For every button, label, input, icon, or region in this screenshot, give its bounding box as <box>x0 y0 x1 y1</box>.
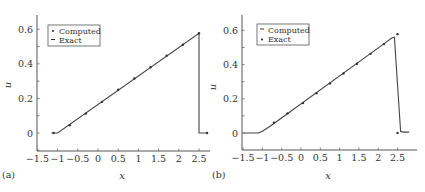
data-point-computed <box>52 132 54 134</box>
data-point-computed <box>206 132 208 134</box>
data-point-exact <box>273 122 275 124</box>
x-tick-label: −0.5 <box>66 153 89 164</box>
series-line-exact <box>52 33 208 133</box>
x-tick-label: 0 <box>95 153 101 164</box>
data-point-computed <box>85 112 87 114</box>
data-point-computed <box>182 44 184 46</box>
chart-panel-a: −1.5−1−0.500.511.522.500.20.40.6xu(a)Com… <box>2 15 210 181</box>
data-point-exact <box>342 72 344 74</box>
x-tick-label: 2 <box>375 152 381 163</box>
legend: ComputedExact <box>257 24 310 45</box>
x-tick-label: 1.5 <box>351 152 366 163</box>
data-point-exact <box>286 112 288 114</box>
y-axis-label: u <box>2 82 13 88</box>
data-point-computed <box>117 89 119 91</box>
x-tick-label: 1.5 <box>151 153 166 164</box>
data-point-exact <box>396 33 398 35</box>
x-tick-label: 0.5 <box>111 153 126 164</box>
chart-panel-b: −1.5−1−0.500.511.522.500.20.40.6xu(b)Com… <box>207 15 417 181</box>
data-point-computed <box>198 32 200 34</box>
data-point-computed <box>101 101 103 103</box>
data-point-computed <box>133 77 135 79</box>
y-tick-label: 0 <box>27 128 33 139</box>
x-axis-label: x <box>119 170 125 181</box>
x-tick-label: 1 <box>135 153 141 164</box>
x-tick-label: −1.5 <box>26 153 49 164</box>
panel-label: (a) <box>2 169 15 180</box>
y-tick-label: 0.4 <box>18 58 33 69</box>
data-point-exact <box>369 53 371 55</box>
legend-entry-label: Computed <box>59 27 101 36</box>
legend-entry-label: Computed <box>268 26 310 35</box>
y-tick-label: 0.4 <box>223 59 238 70</box>
x-tick-label: 2.5 <box>390 152 405 163</box>
y-tick-label: 0.2 <box>223 93 238 104</box>
legend-entry-label: Exact <box>59 36 83 45</box>
data-point-computed <box>165 54 167 56</box>
x-tick-label: 1 <box>337 152 343 163</box>
x-tick-label: −0.5 <box>270 152 293 163</box>
x-axis-label: x <box>325 170 331 181</box>
y-tick-label: 0.2 <box>18 93 33 104</box>
x-tick-label: 2.5 <box>191 153 206 164</box>
x-tick-label: 0 <box>298 152 304 163</box>
y-tick-label: 0 <box>232 128 238 139</box>
data-point-computed <box>149 66 151 68</box>
y-axis-label: u <box>207 84 218 90</box>
legend-dot-icon <box>261 38 263 40</box>
x-tick-label: 2 <box>176 153 182 164</box>
data-point-exact <box>329 82 331 84</box>
data-point-exact <box>396 132 398 134</box>
legend-entry-label: Exact <box>268 35 292 44</box>
x-tick-label: −1 <box>51 153 65 164</box>
y-tick-label: 0.6 <box>18 24 33 35</box>
data-point-computed <box>69 124 71 126</box>
legend: ComputedExact <box>48 25 101 46</box>
y-tick-label: 0.6 <box>223 25 238 36</box>
legend-dot-icon <box>52 30 54 32</box>
figure: −1.5−1−0.500.511.522.500.20.40.6xu(a)Com… <box>0 0 425 192</box>
data-point-exact <box>315 92 317 94</box>
x-tick-label: −1.5 <box>232 152 255 163</box>
data-point-exact <box>302 102 304 104</box>
series-line-computed <box>243 37 409 133</box>
x-tick-label: 0.5 <box>313 152 328 163</box>
x-tick-label: −1 <box>255 152 269 163</box>
panel-label: (b) <box>212 169 226 180</box>
data-point-exact <box>356 63 358 65</box>
data-point-exact <box>383 43 385 45</box>
